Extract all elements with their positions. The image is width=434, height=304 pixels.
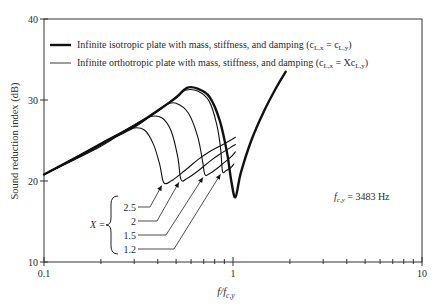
legend-text: ) (348, 39, 351, 51)
legend-sub: L,x (314, 44, 324, 52)
leader-line (138, 174, 221, 249)
x-tick-label: 0.1 (38, 268, 51, 279)
y-tick-label: 30 (28, 95, 38, 106)
y-axis-title: Sound reduction index (dB) (9, 82, 21, 199)
arrowhead (216, 174, 221, 180)
x-axis-title: f/fc,y (217, 286, 235, 300)
legend-text: = c (324, 39, 340, 50)
x-axis-title-sub: c,y (226, 291, 235, 300)
annotation-arrows (138, 174, 221, 249)
legend-text: ) (365, 57, 368, 69)
series-line-x-2 (44, 116, 235, 181)
y-tick-label: 10 (28, 257, 38, 268)
x-tick-label: 10 (417, 268, 427, 279)
y-tick-label: 20 (28, 176, 38, 187)
x-value-label: 1.2 (124, 244, 137, 255)
x-value-label: 1.5 (124, 230, 137, 241)
series-line-isotropic (44, 72, 286, 198)
x-value-labels: 2.521.51.2 (124, 202, 137, 255)
fc-value: = 3483 Hz (345, 191, 390, 202)
series-lines (44, 72, 286, 198)
x-value-label: 2.5 (124, 202, 137, 213)
legend-label-isotropic: Infinite isotropic plate with mass, stif… (77, 39, 351, 52)
legend-sub: L,y (339, 44, 349, 52)
series-line-x-1-5 (44, 103, 235, 176)
series-line-x-1-2 (44, 90, 234, 175)
legend-text: = Xc (333, 57, 356, 68)
critical-frequency-label: fc,y = 3483 Hz (334, 191, 390, 204)
x-value-label: 2 (131, 216, 136, 227)
legend-sub: L,x (323, 62, 333, 70)
axis-ticks: 102030400.1110 (28, 14, 427, 280)
legend: Infinite isotropic plate with mass, stif… (50, 39, 368, 70)
x-bracket-brace (106, 196, 118, 254)
legend-text: Infinite isotropic plate with mass, stif… (77, 39, 315, 51)
x-tick-label: 1 (231, 268, 236, 279)
arrowhead (198, 178, 203, 184)
legend-label-orthotropic: Infinite orthotropic plate with mass, st… (77, 57, 368, 70)
chart: 102030400.1110 Sound reduction index (dB… (0, 0, 434, 304)
leader-line (138, 178, 203, 235)
legend-text: Infinite orthotropic plate with mass, st… (77, 57, 324, 69)
y-tick-label: 40 (28, 14, 38, 25)
legend-sub: L,y (355, 62, 365, 70)
x-bracket-label: X = (89, 219, 105, 230)
